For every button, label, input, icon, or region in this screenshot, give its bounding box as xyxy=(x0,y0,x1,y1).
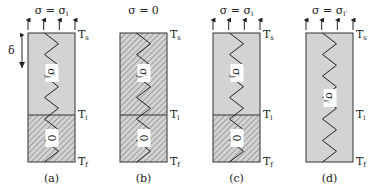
figure-canvas: σ = σiσi0δTsTiTf(a)σ = 0σi0TsTiTf(b)σ = … xyxy=(0,0,387,188)
T-surface-label: Ts xyxy=(263,28,274,42)
T-final-label: Tf xyxy=(170,155,181,169)
boundary-condition-label: σ = 0 xyxy=(128,4,159,17)
panel-caption: (c) xyxy=(229,172,244,185)
T-interface-label: Ti xyxy=(263,108,273,122)
panel-caption: (b) xyxy=(136,172,152,185)
panel-d: σ = σi′σi′TsTiTf(d) xyxy=(306,4,367,185)
boundary-condition-label: σ = σi xyxy=(220,4,254,18)
stress-label-upper: σi xyxy=(229,64,244,82)
boundary-condition-label: σ = σi xyxy=(35,4,69,18)
T-surface-label: Ts xyxy=(356,28,367,42)
delta-label: δ xyxy=(8,44,15,57)
stress-label-upper: σi xyxy=(136,64,151,82)
stress-label-lower-text: 0 xyxy=(137,135,150,142)
stress-label-lower-text: 0 xyxy=(230,135,243,142)
panel-b: σ = 0σi0TsTiTf(b) xyxy=(120,4,181,185)
boundary-condition-label: σ = σi′ xyxy=(312,4,347,18)
T-surface-label: Ts xyxy=(78,28,89,42)
T-final-label: Tf xyxy=(78,155,89,169)
stress-label-upper: σi xyxy=(44,64,59,82)
T-interface-label: Ti xyxy=(170,108,180,122)
panel-caption: (a) xyxy=(44,172,59,185)
stress-label-lower: 0 xyxy=(137,129,151,147)
stress-label-lower: 0 xyxy=(230,129,244,147)
stress-label-lower-text: 0 xyxy=(45,135,58,142)
panel-c: σ = σiσi0TsTiTf(c) xyxy=(213,4,274,185)
T-surface-label: Ts xyxy=(170,28,181,42)
delta-arrowhead-icon xyxy=(19,62,25,68)
T-interface-label: Ti xyxy=(356,108,366,122)
stress-label-upper: σi′ xyxy=(322,89,337,107)
T-final-label: Tf xyxy=(263,155,274,169)
panel-a: σ = σiσi0δTsTiTf(a) xyxy=(8,4,89,185)
panel-caption: (d) xyxy=(322,172,338,185)
stress-label-lower: 0 xyxy=(45,129,59,147)
T-final-label: Tf xyxy=(356,155,367,169)
T-interface-label: Ti xyxy=(78,108,88,122)
